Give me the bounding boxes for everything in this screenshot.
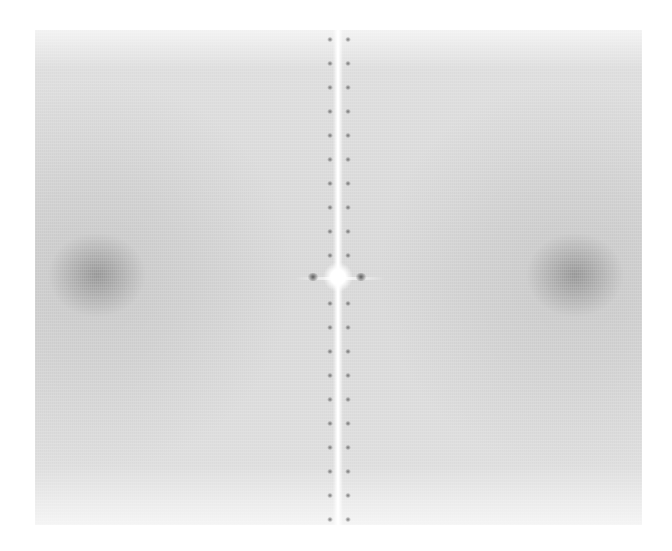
- spectral-dot: [327, 205, 333, 210]
- spectral-dot: [327, 85, 333, 90]
- spectral-dot: [327, 517, 333, 522]
- spectral-dot: [345, 397, 351, 402]
- spectral-dot: [327, 301, 333, 306]
- spectral-dot: [327, 349, 333, 354]
- dc-center-peak: [323, 262, 353, 292]
- spectral-dot: [345, 469, 351, 474]
- spectral-dot: [327, 37, 333, 42]
- spectral-dot: [345, 445, 351, 450]
- spectral-dot: [327, 493, 333, 498]
- spectral-dot: [345, 229, 351, 234]
- spectral-dot: [327, 157, 333, 162]
- spectral-dot: [345, 517, 351, 522]
- fft-spectrum-image: [35, 30, 642, 525]
- spectral-dot: [345, 493, 351, 498]
- near-center-spot-right: [355, 273, 367, 281]
- spectral-dot: [327, 61, 333, 66]
- spectral-dot: [345, 205, 351, 210]
- spectral-dot: [327, 253, 333, 258]
- spectral-dot: [345, 37, 351, 42]
- spectral-dot: [327, 229, 333, 234]
- spectral-dot: [327, 469, 333, 474]
- spectral-dot: [327, 109, 333, 114]
- spectral-dot: [345, 181, 351, 186]
- spectral-dot: [327, 133, 333, 138]
- spectral-dot: [327, 325, 333, 330]
- spectral-dot: [345, 373, 351, 378]
- spectral-dot: [345, 157, 351, 162]
- spectral-dot: [345, 85, 351, 90]
- spectral-dot: [345, 421, 351, 426]
- near-center-spot-left: [307, 273, 319, 281]
- spectral-dot: [345, 325, 351, 330]
- spectral-dot: [327, 373, 333, 378]
- spectral-dot: [327, 397, 333, 402]
- spectral-dot: [345, 349, 351, 354]
- spectral-dot: [345, 253, 351, 258]
- spectral-dot: [327, 445, 333, 450]
- spectral-dot: [345, 133, 351, 138]
- spectral-dot: [345, 109, 351, 114]
- spectral-dot: [345, 301, 351, 306]
- spectral-dot: [327, 421, 333, 426]
- spectral-dot: [345, 61, 351, 66]
- spectral-dot: [327, 181, 333, 186]
